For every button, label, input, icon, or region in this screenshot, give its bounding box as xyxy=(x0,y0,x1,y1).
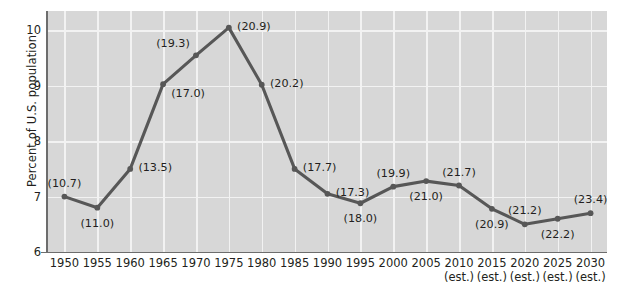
data-point-label: (13.5) xyxy=(138,160,172,173)
data-point-label: (11.0) xyxy=(80,216,114,229)
data-point-label: (20.9) xyxy=(237,19,271,32)
y-axis-tick-labels: 678910 xyxy=(0,0,41,301)
data-point-label: (21.2) xyxy=(508,204,542,217)
y-tick-label: 9 xyxy=(7,79,41,93)
gridline-vertical xyxy=(229,11,231,252)
data-point-label: (10.7) xyxy=(48,176,82,189)
data-point-label: (17.3) xyxy=(336,185,370,198)
gridline-vertical xyxy=(558,11,560,252)
data-point-label: (21.7) xyxy=(442,165,476,178)
data-point-label: (23.4) xyxy=(574,193,608,206)
y-tick-label: 7 xyxy=(7,190,41,204)
gridline-vertical xyxy=(196,11,198,252)
gridline-vertical xyxy=(295,11,297,252)
data-point-label: (20.2) xyxy=(270,76,304,89)
x-tick-estimate-note: (est.) xyxy=(566,270,616,284)
data-point-label: (17.0) xyxy=(171,87,205,100)
y-tick-label: 6 xyxy=(7,245,41,259)
data-point-label: (19.3) xyxy=(156,37,190,50)
data-point-label: (21.0) xyxy=(409,190,443,203)
gridline-vertical xyxy=(64,11,66,252)
x-tick-label: 2030(est.) xyxy=(566,256,616,284)
gridline-vertical xyxy=(591,11,593,252)
gridline-vertical xyxy=(262,11,264,252)
y-tick-label: 10 xyxy=(7,23,41,37)
y-tick-label: 8 xyxy=(7,134,41,148)
data-point-label: (20.9) xyxy=(475,217,509,230)
gridline-vertical xyxy=(459,11,461,252)
data-point-label: (17.7) xyxy=(303,160,337,173)
gridline-vertical xyxy=(393,11,395,252)
data-point-label: (18.0) xyxy=(344,212,378,225)
data-point-label: (22.2) xyxy=(541,227,575,240)
line-chart: Percent of U.S. population 678910 195019… xyxy=(0,0,620,301)
gridline-vertical xyxy=(328,11,330,252)
data-point-label: (19.9) xyxy=(376,166,410,179)
x-axis-line xyxy=(41,252,607,254)
gridline-vertical xyxy=(130,11,132,252)
y-axis-line xyxy=(46,11,48,253)
gridline-vertical xyxy=(426,11,428,252)
gridline-vertical xyxy=(492,11,494,252)
